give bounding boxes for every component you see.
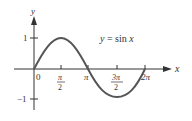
- pi-label: π: [84, 72, 89, 82]
- y-tick-label-neg1: −1: [17, 94, 27, 104]
- three-pi-half-num: 3π: [111, 73, 121, 82]
- equation-label: y = sin x: [99, 33, 134, 44]
- two-pi-label: 2π: [141, 72, 151, 82]
- x-axis-label: x: [174, 63, 180, 74]
- x-axis-arrow-icon: [163, 66, 172, 72]
- y-tick-label-1: 1: [23, 33, 28, 43]
- sine-curve: [34, 38, 145, 97]
- three-pi-half-den: 2: [114, 83, 118, 92]
- sine-chart: y x 1 −1 0 π 2 π 3π 2 2π y = sin x: [0, 0, 192, 121]
- y-axis-label: y: [30, 6, 35, 16]
- origin-label: 0: [36, 72, 41, 82]
- pi-half-den: 2: [58, 83, 62, 92]
- y-axis-arrow-icon: [31, 16, 37, 25]
- pi-half-num: π: [58, 73, 63, 82]
